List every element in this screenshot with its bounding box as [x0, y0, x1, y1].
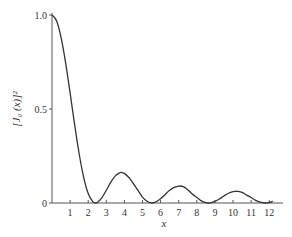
y-tick-label: 0 [42, 198, 47, 209]
y-ticks: 00.51.0 [35, 10, 53, 209]
y-tick-label: 1.0 [35, 10, 48, 21]
x-tick-label: 5 [140, 207, 145, 218]
x-tick-label: 1 [68, 207, 73, 218]
y-axis-label: [J₀ (x)]² [10, 91, 23, 127]
x-axis: 123456789101112 [52, 200, 283, 218]
x-tick-label: 10 [228, 207, 238, 218]
x-tick-label: 9 [212, 207, 217, 218]
x-axis-label: x [161, 217, 167, 229]
y-axis: 00.51.0 [35, 10, 53, 209]
x-tick-label: 8 [194, 207, 199, 218]
y-tick-label: 0.5 [35, 104, 48, 115]
x-tick-label: 3 [104, 207, 109, 218]
x-tick-label: 4 [122, 207, 127, 218]
bessel-squared-chart: 00.51.0 123456789101112 x [J₀ (x)]² [0, 0, 292, 237]
x-tick-label: 2 [86, 207, 91, 218]
x-tick-label: 12 [264, 207, 274, 218]
data-line [52, 15, 273, 203]
x-tick-label: 7 [176, 207, 181, 218]
x-tick-label: 11 [246, 207, 256, 218]
